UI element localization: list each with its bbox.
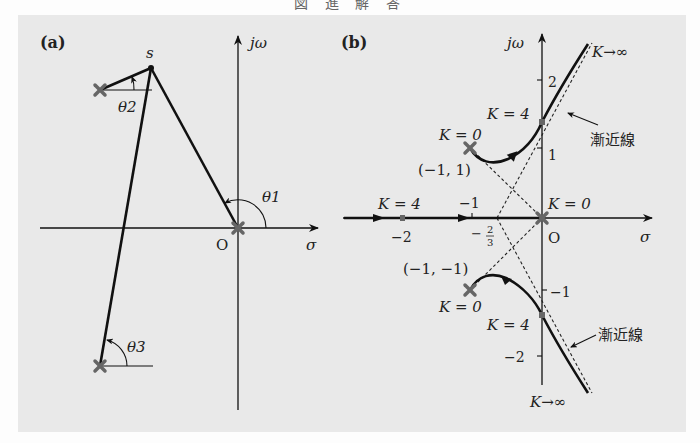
pole-marker-b-lower: [465, 285, 475, 295]
imag-axis-label-a: jω: [247, 34, 267, 52]
pole-marker-b-upper: [465, 143, 475, 153]
tick-imag-neg2: −2: [504, 349, 525, 365]
k4-marker-upper: [539, 119, 545, 125]
k-infinity-label-top: K→∞: [591, 43, 628, 61]
vector-theta1: [151, 68, 238, 228]
vector-theta2: [100, 68, 151, 90]
origin-label-a: O: [216, 236, 228, 254]
pole-coord-label-bottom: (−1, −1): [403, 260, 468, 278]
tick-real-neg1: −1: [459, 195, 480, 211]
centroid-denominator: 3: [487, 237, 493, 248]
k0-label-origin: K = 0: [547, 195, 591, 213]
arc-theta3: [107, 340, 127, 366]
tick-imag-1: 1: [548, 147, 557, 163]
centroid-numerator: 2: [487, 224, 493, 235]
locus-arrow-real-2: [373, 214, 385, 222]
imag-axis-label-b: jω: [504, 34, 524, 52]
k-infinity-label-bottom: K→∞: [529, 393, 566, 411]
point-s-label: s: [146, 44, 154, 62]
tick-imag-2: 2: [548, 74, 557, 90]
locus-arrow-real-1: [458, 214, 470, 222]
centroid-sign: −: [471, 226, 482, 241]
origin-label-b: O: [548, 229, 560, 247]
panel-b: (b) jω σ O 2 1 −1 −2 −2 −1 − 2 3: [341, 33, 652, 411]
panel-a: (a) jω σ O s θ2 θ1 θ3: [40, 33, 318, 410]
theta2-label: θ2: [118, 98, 137, 116]
pole-coord-label-top: (−1, 1): [418, 161, 471, 179]
tick-imag-neg1: −1: [550, 284, 571, 300]
k0-label-bottom: K = 0: [438, 298, 482, 316]
asymptote-pointer-bottom: [571, 335, 596, 347]
theta3-label: θ3: [127, 338, 146, 356]
locus-branch-upper: [470, 44, 588, 162]
k4-marker-lower: [539, 312, 545, 318]
panel-a-label: (a): [40, 33, 66, 52]
root-locus-figure: (a) jω σ O s θ2 θ1 θ3 (b): [0, 0, 700, 443]
real-axis-label-a: σ: [306, 236, 317, 254]
theta1-label: θ1: [262, 188, 281, 206]
k4-label-bottom: K = 4: [486, 316, 530, 334]
k4-marker-real: [400, 215, 405, 221]
asymptote-label-bottom: 漸近線: [598, 326, 643, 344]
point-s: [148, 65, 154, 71]
arc-theta2: [132, 77, 134, 90]
k0-label-top: K = 0: [438, 126, 482, 144]
k4-label-real: K = 4: [377, 195, 421, 213]
asymptote-upper: [497, 43, 592, 218]
asymptote-lower: [497, 218, 592, 393]
tick-real-neg2: −2: [391, 229, 412, 245]
panel-b-label: (b): [341, 33, 367, 52]
asymptote-pointer-top: [568, 113, 598, 125]
real-axis-label-b: σ: [640, 228, 651, 246]
asymptote-label-top: 漸近線: [590, 131, 635, 149]
k4-label-top: K = 4: [486, 105, 530, 123]
